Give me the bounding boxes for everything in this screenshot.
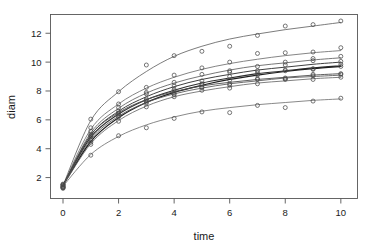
x-tick-label: 8 (283, 207, 288, 218)
x-tick-label: 4 (171, 207, 176, 218)
y-tick-label: 6 (36, 114, 41, 125)
y-tick-label: 4 (36, 143, 41, 154)
growth-curve-chart: 0246810 24681012 time diam (0, 0, 375, 250)
x-tick-label: 10 (336, 207, 347, 218)
x-tick-label: 6 (227, 207, 232, 218)
x-tick-label: 2 (116, 207, 121, 218)
x-axis-title: time (194, 230, 215, 242)
y-tick-label: 12 (31, 28, 42, 39)
y-tick-label: 8 (36, 85, 41, 96)
x-tick-label: 0 (60, 207, 65, 218)
y-axis-title: diam (5, 95, 17, 119)
chart-background (0, 0, 375, 250)
y-tick-label: 2 (36, 172, 41, 183)
y-tick-label: 10 (31, 57, 42, 68)
